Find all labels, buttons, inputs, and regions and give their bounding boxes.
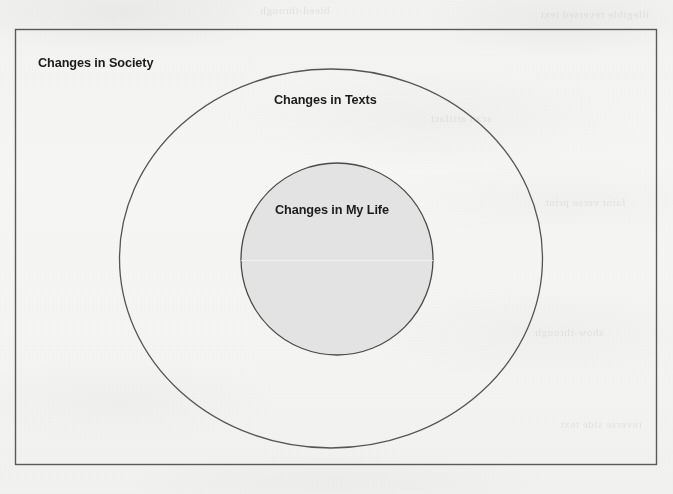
nested-circles-diagram <box>0 0 673 494</box>
my-life-boundary-circle <box>241 163 433 355</box>
scanned-page: bleed-through illegible reversed text sc… <box>0 0 673 494</box>
label-changes-in-texts: Changes in Texts <box>274 92 377 107</box>
label-changes-in-my-life: Changes in My Life <box>275 202 389 217</box>
label-changes-in-society: Changes in Society <box>38 55 153 70</box>
